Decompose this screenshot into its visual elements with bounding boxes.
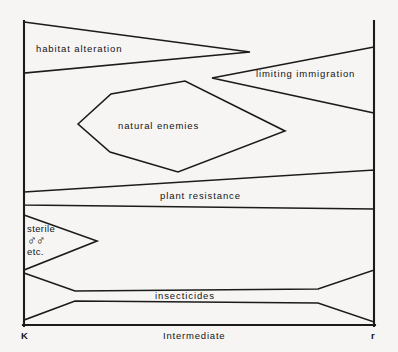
label-plant-resistance: plant resistance (160, 190, 241, 201)
axis-label-r: r (371, 330, 376, 341)
pest-management-diagram: habitat alteration limiting immigration … (0, 0, 398, 352)
label-habitat-alteration: habitat alteration (36, 43, 122, 54)
label-insecticides: insecticides (155, 290, 215, 301)
axis-label-intermediate: Intermediate (163, 330, 225, 341)
region-limiting-immigration (212, 47, 374, 113)
label-limiting-immigration: limiting immigration (256, 68, 355, 79)
sterile-line-3: etc. (27, 246, 44, 257)
axis-label-k: K (21, 330, 29, 341)
label-natural-enemies: natural enemies (118, 120, 199, 131)
label-sterile-males: sterile ♂♂ etc. (27, 224, 55, 257)
